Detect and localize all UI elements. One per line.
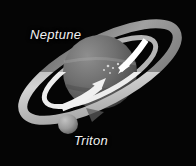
moon-triton	[58, 114, 78, 134]
label-neptune: Neptune	[30, 27, 81, 42]
diagram-canvas: Neptune Triton	[0, 0, 196, 166]
label-triton: Triton	[74, 133, 108, 148]
